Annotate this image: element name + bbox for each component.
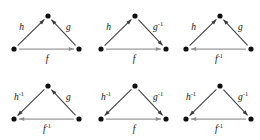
- node-bottom-left: [11, 46, 16, 51]
- node-bottom-left: [98, 46, 103, 51]
- node-bottom-right: [163, 46, 168, 51]
- node-apex: [132, 13, 137, 18]
- base-edge-label: f: [113, 125, 155, 135]
- diagram-6: h-1g-1f-1: [176, 76, 260, 140]
- node-bottom-right: [163, 116, 168, 121]
- right-edge-label: g: [66, 93, 92, 103]
- node-bottom-right: [248, 116, 253, 121]
- node-bottom-right: [76, 116, 81, 121]
- base-edge-label: f-1: [198, 55, 240, 65]
- left-edge-label: h-1: [4, 93, 24, 103]
- commutative-triangle-figure: hgfhg-1fhgf-1h-1gf-1h-1g-1fh-1g-1f-1: [0, 0, 260, 140]
- right-edge-label: g-1: [238, 93, 260, 103]
- right-edge-label: g: [66, 23, 92, 33]
- left-edge-label: h-1: [91, 93, 111, 103]
- node-bottom-left: [183, 46, 188, 51]
- diagram-5: h-1g-1f: [91, 76, 177, 140]
- base-edge-label: f-1: [198, 125, 240, 135]
- base-edge-label: f-1: [26, 125, 68, 135]
- node-apex: [217, 13, 222, 18]
- node-apex: [45, 13, 50, 18]
- node-bottom-left: [11, 116, 16, 121]
- left-edge-label: h: [4, 23, 24, 33]
- node-bottom-left: [98, 116, 103, 121]
- right-edge-label: g: [238, 23, 260, 33]
- diagram-1: hgf: [4, 6, 90, 70]
- node-bottom-right: [76, 46, 81, 51]
- node-bottom-right: [248, 46, 253, 51]
- node-bottom-left: [183, 116, 188, 121]
- diagram-3: hgf-1: [176, 6, 260, 70]
- node-apex: [45, 83, 50, 88]
- base-edge-label: f: [113, 55, 155, 65]
- base-edge-label: f: [26, 55, 68, 65]
- diagram-2: hg-1f: [91, 6, 177, 70]
- left-edge-label: h-1: [176, 93, 196, 103]
- left-edge-label: h: [91, 23, 111, 33]
- diagram-4: h-1gf-1: [4, 76, 90, 140]
- node-apex: [132, 83, 137, 88]
- left-edge-label: h: [176, 23, 196, 33]
- node-apex: [217, 83, 222, 88]
